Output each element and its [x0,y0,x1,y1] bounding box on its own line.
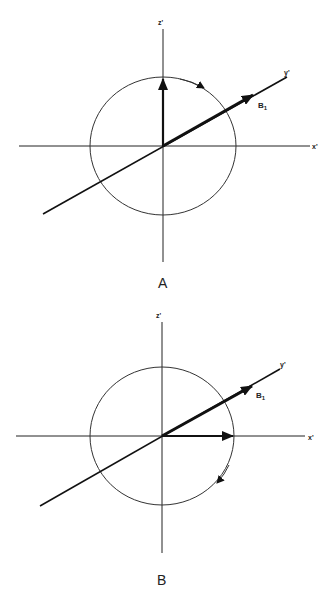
rotation-arrow-icon [217,465,229,483]
panel-caption: A [158,275,168,291]
x-axis-label: x' [312,143,318,150]
panel-b: z' y' x' B1 B [16,312,314,588]
panel-caption: B [157,572,166,588]
z-axis-label: z' [158,19,164,26]
b1-vector [163,95,253,146]
y-axis-label: y' [284,69,290,77]
y-axis-label: y' [280,361,286,369]
b1-label: B1 [256,391,266,401]
z-axis-label: z' [156,312,162,319]
b1-label: B1 [258,101,268,111]
panel-a: z' y' x' B1 A [19,19,318,291]
rotating-frame-diagrams: z' y' x' B1 A z' y' x' B1 B [0,0,333,602]
b1-vector [162,386,252,436]
x-axis-label: x' [308,434,314,441]
